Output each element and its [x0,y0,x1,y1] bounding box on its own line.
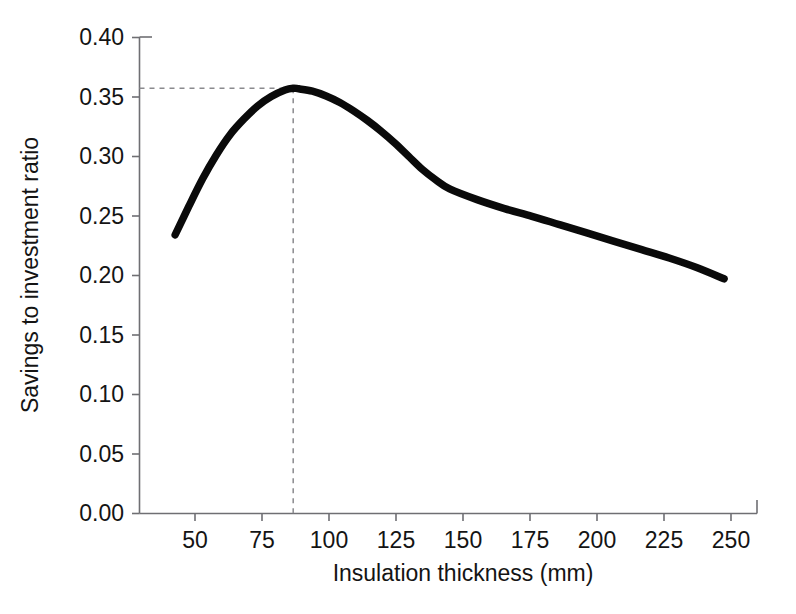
x-tick-label-3: 125 [377,527,415,553]
y-tick-label-7: 0.35 [79,84,124,110]
x-tick-label-8: 250 [712,527,750,553]
x-tick-label-5: 175 [511,527,549,553]
y-tick-labels: 0.00 0.05 0.10 0.15 0.20 0.25 0.30 0.35 … [79,24,124,526]
x-axis-title: Insulation thickness (mm) [333,560,594,586]
x-tick-labels: 50 75 100 125 150 175 200 225 250 [182,527,750,553]
y-axis-title: Savings to investment ratio [17,137,43,413]
y-tick-label-5: 0.25 [79,203,124,229]
x-tick-marks [195,514,731,522]
y-tick-label-8: 0.40 [79,24,124,50]
x-tick-label-0: 50 [182,527,208,553]
y-tick-label-1: 0.05 [79,441,124,467]
axis-frame [140,37,758,514]
savings-curve-path [175,88,724,279]
y-tick-label-0: 0.00 [79,500,124,526]
x-tick-label-4: 150 [444,527,482,553]
x-tick-label-7: 225 [645,527,683,553]
y-tick-label-3: 0.15 [79,322,124,348]
y-tick-label-4: 0.20 [79,262,124,288]
y-tick-label-6: 0.30 [79,143,124,169]
y-tick-label-2: 0.10 [79,381,124,407]
x-tick-label-6: 200 [578,527,616,553]
x-tick-label-1: 75 [249,527,275,553]
chart-canvas: 0.00 0.05 0.10 0.15 0.20 0.25 0.30 0.35 … [0,0,796,614]
figure-container: 0.00 0.05 0.10 0.15 0.20 0.25 0.30 0.35 … [0,0,796,614]
x-tick-label-2: 100 [310,527,348,553]
y-tick-marks [132,38,140,514]
